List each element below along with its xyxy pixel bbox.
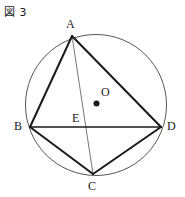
center-point-dot: [94, 101, 100, 107]
figure-container: 図 3 A B C D E O: [0, 0, 185, 197]
vertex-label-D: D: [167, 120, 176, 132]
vertex-label-B: B: [14, 120, 22, 132]
vertex-label-A: A: [66, 18, 75, 30]
segment-DA: [72, 36, 161, 127]
segment-AC: [72, 36, 93, 174]
segment-CD: [93, 127, 161, 174]
segment-AB: [30, 36, 72, 127]
intersection-label-E: E: [72, 112, 79, 124]
geometry-diagram: [0, 0, 185, 197]
center-label-O: O: [101, 86, 110, 98]
vertex-label-C: C: [88, 180, 96, 192]
